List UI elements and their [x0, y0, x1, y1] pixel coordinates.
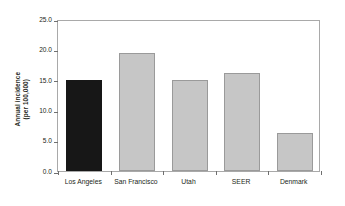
y-axis-tick-mark [54, 142, 58, 143]
x-axis-label-los-angeles: Los Angeles [65, 178, 102, 185]
y-axis-tick-label: 0.0 [43, 168, 52, 175]
y-axis-tick-label: 5.0 [43, 137, 52, 144]
bar-chart-figure: Annual incidence (per 100,000) 0.05.010.… [0, 0, 345, 206]
plot-area: 0.05.010.015.020.025.0 [57, 20, 320, 172]
x-axis-tick-mark [111, 171, 112, 175]
x-axis-label-utah: Utah [181, 178, 195, 185]
x-axis-label-seer: SEER [232, 178, 251, 185]
bar-los-angeles [66, 80, 102, 171]
x-axis-tick-mark [268, 171, 269, 175]
x-axis-label-denmark: Denmark [280, 178, 308, 185]
y-axis-tick-label: 10.0 [39, 107, 52, 114]
y-axis-tick-label: 25.0 [39, 16, 52, 23]
x-axis-tick-mark [163, 171, 164, 175]
y-axis-tick-mark [54, 112, 58, 113]
y-axis-tick-label: 20.0 [39, 46, 52, 53]
y-axis-tick-mark [54, 81, 58, 82]
x-axis-label-san-francisco: San Francisco [114, 178, 157, 185]
y-axis-title: Annual incidence (per 100,000) [14, 46, 30, 152]
y-axis-title-line1: Annual incidence [14, 72, 22, 127]
y-axis-tick-mark [54, 21, 58, 22]
x-axis-tick-mark [321, 171, 322, 175]
y-axis-title-line2: (per 100,000) [22, 72, 30, 127]
bar-denmark [277, 133, 313, 171]
bar-seer [224, 73, 260, 171]
bar-utah [172, 80, 208, 171]
bar-san-francisco [119, 53, 155, 171]
x-axis-tick-mark [58, 171, 59, 175]
y-axis-tick-mark [54, 51, 58, 52]
x-axis-tick-mark [216, 171, 217, 175]
y-axis-tick-label: 15.0 [39, 77, 52, 84]
